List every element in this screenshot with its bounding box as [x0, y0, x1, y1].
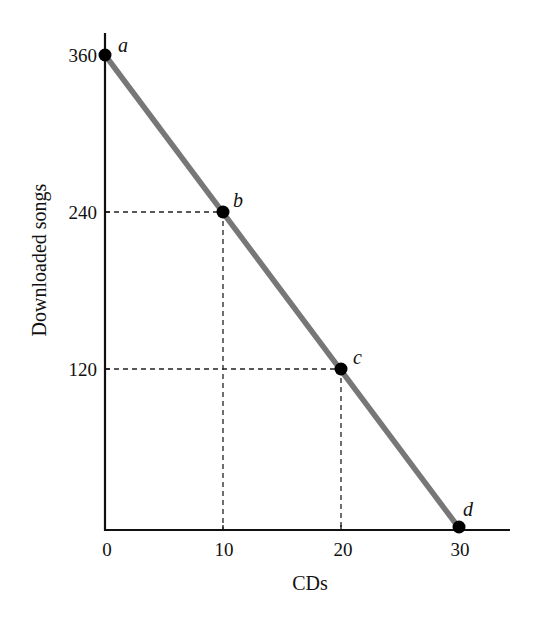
y-tick-120: 120	[69, 359, 98, 380]
point-label-c: c	[353, 346, 362, 368]
guide-lines	[105, 212, 341, 530]
point-label-a: a	[118, 34, 128, 56]
y-tick-360: 360	[69, 45, 98, 66]
point-b	[217, 206, 230, 219]
y-tick-240: 240	[69, 202, 98, 223]
x-tick-30: 30	[451, 539, 470, 560]
point-label-b: b	[233, 189, 243, 211]
x-axis-label: CDs	[292, 572, 328, 594]
x-tick-20: 20	[334, 539, 353, 560]
point-a	[99, 49, 112, 62]
budget-line	[105, 55, 459, 528]
point-d	[453, 521, 466, 534]
x-tick-10: 10	[215, 539, 234, 560]
point-label-d: d	[463, 498, 474, 520]
x-tick-0: 0	[102, 539, 112, 560]
point-c	[335, 363, 348, 376]
y-axis-label: Downloaded songs	[28, 183, 51, 336]
budget-line-chart: a b c d 360 240 120 0 10 20 30 CDs Downl…	[0, 0, 537, 627]
